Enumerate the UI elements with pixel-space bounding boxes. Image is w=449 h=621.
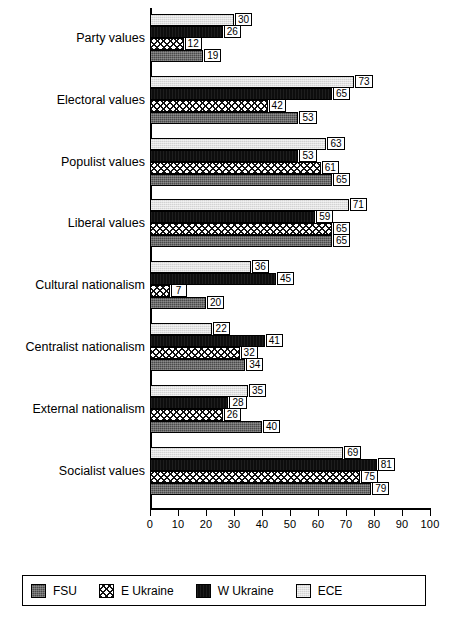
value-label-e-ukraine-cultural-nationalism: 7 [171, 284, 187, 297]
category-label-populist-values: Populist values [0, 156, 145, 169]
value-label-ece-external-nationalism: 35 [249, 384, 266, 397]
x-tick-40 [262, 510, 263, 516]
value-label-ece-populist-values: 63 [327, 137, 344, 150]
value-label-ece-liberal-values: 71 [350, 198, 367, 211]
legend-label-ece: ECE [318, 584, 343, 598]
value-label-w-ukraine-liberal-values: 59 [316, 210, 333, 223]
bar-w-ukraine-external-nationalism [150, 397, 228, 409]
bar-e-ukraine-liberal-values [150, 223, 332, 235]
bar-ece-centralist-nationalism [150, 323, 212, 335]
ece-swatch-icon [296, 584, 311, 598]
value-label-w-ukraine-party-values: 26 [224, 25, 241, 38]
chart-legend: FSU E Ukraine W Ukraine ECE [22, 575, 426, 606]
category-label-external-nationalism: External nationalism [0, 403, 145, 416]
bar-fsu-populist-values [150, 174, 332, 186]
bar-w-ukraine-socialist-values [150, 459, 377, 471]
x-tick-10 [178, 510, 179, 516]
bar-e-ukraine-cultural-nationalism [150, 285, 170, 297]
x-tick-20 [206, 510, 207, 516]
category-label-cultural-nationalism: Cultural nationalism [0, 279, 145, 292]
fsu-swatch-icon [31, 584, 46, 598]
bar-w-ukraine-electoral-values [150, 88, 332, 100]
x-tick-80 [374, 510, 375, 516]
value-label-e-ukraine-party-values: 12 [185, 37, 202, 50]
category-label-electoral-values: Electoral values [0, 94, 145, 107]
x-tick-30 [234, 510, 235, 516]
legend-label-w-ukraine: W Ukraine [218, 584, 274, 598]
value-label-ece-socialist-values: 69 [344, 446, 361, 459]
x-tick-label-100: 100 [410, 518, 449, 530]
value-label-w-ukraine-centralist-nationalism: 41 [266, 334, 283, 347]
value-label-fsu-party-values: 19 [204, 49, 221, 62]
w-ukraine-swatch-icon [196, 584, 211, 598]
bar-fsu-liberal-values [150, 235, 332, 247]
legend-item-fsu: FSU [31, 584, 77, 598]
bar-ece-party-values [150, 14, 234, 26]
bar-e-ukraine-socialist-values [150, 471, 360, 483]
bar-chart: 0102030405060708090100 Party valuesElect… [0, 0, 449, 621]
bar-ece-socialist-values [150, 447, 343, 459]
value-label-fsu-socialist-values: 79 [372, 482, 389, 495]
bar-w-ukraine-liberal-values [150, 211, 315, 223]
bar-e-ukraine-populist-values [150, 162, 321, 174]
value-label-fsu-liberal-values: 65 [333, 234, 350, 247]
value-label-e-ukraine-electoral-values: 42 [269, 99, 286, 112]
bar-ece-cultural-nationalism [150, 261, 251, 273]
value-label-e-ukraine-external-nationalism: 26 [224, 408, 241, 421]
bar-fsu-cultural-nationalism [150, 297, 206, 309]
x-tick-70 [346, 510, 347, 516]
bar-ece-electoral-values [150, 76, 354, 88]
value-label-ece-centralist-nationalism: 22 [213, 322, 230, 335]
value-label-fsu-centralist-nationalism: 34 [246, 358, 263, 371]
value-label-w-ukraine-electoral-values: 65 [333, 87, 350, 100]
value-label-w-ukraine-socialist-values: 81 [378, 458, 395, 471]
bar-e-ukraine-electoral-values [150, 100, 268, 112]
bar-w-ukraine-populist-values [150, 150, 298, 162]
x-tick-0 [150, 510, 151, 516]
bar-fsu-socialist-values [150, 483, 371, 495]
category-label-socialist-values: Socialist values [0, 465, 145, 478]
value-label-ece-cultural-nationalism: 36 [252, 260, 269, 273]
value-label-fsu-cultural-nationalism: 20 [207, 296, 224, 309]
x-tick-50 [290, 510, 291, 516]
category-label-party-values: Party values [0, 32, 145, 45]
x-tick-100 [430, 510, 431, 516]
value-label-fsu-electoral-values: 53 [299, 111, 316, 124]
x-tick-90 [402, 510, 403, 516]
e-ukraine-swatch-icon [99, 584, 114, 598]
legend-label-fsu: FSU [53, 584, 77, 598]
bar-fsu-external-nationalism [150, 421, 262, 433]
legend-label-e-ukraine: E Ukraine [121, 584, 174, 598]
value-label-w-ukraine-populist-values: 53 [299, 149, 316, 162]
bar-e-ukraine-centralist-nationalism [150, 347, 240, 359]
category-label-centralist-nationalism: Centralist nationalism [0, 341, 145, 354]
bar-w-ukraine-cultural-nationalism [150, 273, 276, 285]
value-label-fsu-populist-values: 65 [333, 173, 350, 186]
value-label-ece-electoral-values: 73 [355, 75, 372, 88]
bar-fsu-party-values [150, 50, 203, 62]
bar-fsu-electoral-values [150, 112, 298, 124]
legend-item-w-ukraine: W Ukraine [196, 584, 274, 598]
bar-e-ukraine-party-values [150, 38, 184, 50]
value-label-fsu-external-nationalism: 40 [263, 420, 280, 433]
bar-fsu-centralist-nationalism [150, 359, 245, 371]
legend-item-e-ukraine: E Ukraine [99, 584, 174, 598]
legend-item-ece: ECE [296, 584, 343, 598]
value-label-w-ukraine-cultural-nationalism: 45 [277, 272, 294, 285]
x-tick-60 [318, 510, 319, 516]
bar-e-ukraine-external-nationalism [150, 409, 223, 421]
category-label-liberal-values: Liberal values [0, 217, 145, 230]
